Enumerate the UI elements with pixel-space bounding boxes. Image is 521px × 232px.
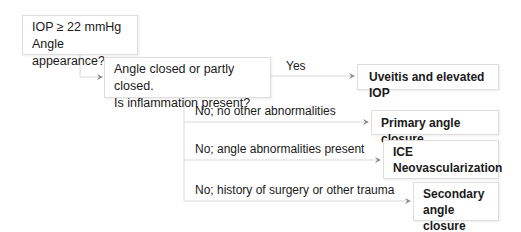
outcome-uveitis: Uveitis and elevated IOP (357, 64, 499, 90)
outcome-secondary-angle-closure: Secondary angle closure (413, 182, 499, 221)
branch-label-no-other: No; no other abnormalities (195, 104, 336, 118)
outcome-secondary-line-1: Secondary (423, 186, 498, 202)
outcome-uveitis-text: Uveitis and elevated IOP (369, 69, 498, 101)
question-node: Angle closed or partly closed. Is inflam… (104, 57, 271, 98)
branch-label-surgery-trauma: No; history of surgery or other trauma (195, 183, 394, 197)
outcome-ice-line-1: ICE (393, 144, 498, 160)
branch-label-yes: Yes (286, 59, 306, 73)
branch-label-angle-abnormal: No; angle abnormalities present (195, 142, 364, 156)
question-line-1: Angle closed or partly closed. (114, 61, 270, 95)
outcome-primary-angle-closure: Primary angle closure (371, 110, 499, 135)
outcome-secondary-line-2: angle closure (423, 202, 498, 232)
start-node: IOP ≥ 22 mmHg Angle appearance? (22, 15, 138, 55)
start-line-1: IOP ≥ 22 mmHg (32, 19, 137, 36)
outcome-ice-neovascularization: ICE Neovascularization (383, 140, 499, 179)
outcome-ice-line-2: Neovascularization (393, 160, 498, 176)
